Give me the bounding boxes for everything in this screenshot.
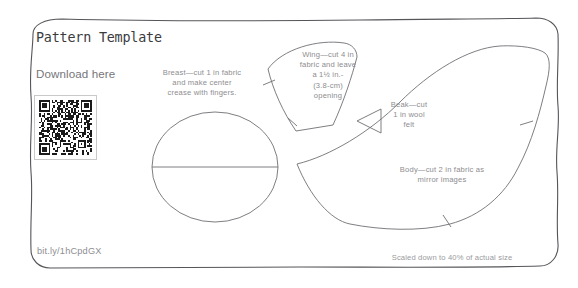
pattern-template-page: Pattern Template Download here Breast—cu… [0, 0, 578, 288]
body-piece-label: Body—cut 2 in fabric as mirror images [382, 165, 502, 185]
scale-note: Scaled down to 40% of actual size [372, 253, 532, 262]
qr-code[interactable] [34, 95, 97, 160]
qr-code-canvas [39, 100, 92, 155]
download-here-label: Download here [36, 67, 115, 80]
body-notch-right [520, 121, 533, 125]
short-url-text: bit.ly/1hCpdGX [37, 246, 102, 256]
wing-notch-upper [263, 80, 275, 85]
wing-notch-lower [288, 118, 297, 126]
page-title: Pattern Template [36, 30, 162, 45]
beak-piece-label: Beak—cut 1 in wool felt [378, 100, 440, 131]
breast-piece-label: Breast—cut 1 in fabric and make center c… [142, 68, 262, 99]
wing-piece-label: Wing—cut 4 in fabric and leave a 1½ in.-… [286, 50, 370, 101]
